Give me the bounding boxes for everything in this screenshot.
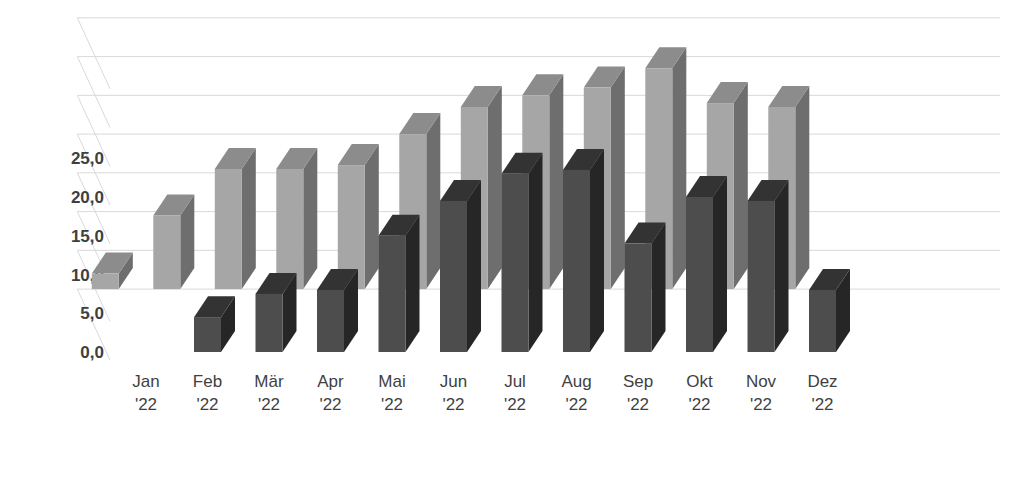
x-tick-label-month: Apr	[317, 372, 344, 391]
bar-side-face	[795, 86, 809, 289]
bar-front	[440, 180, 481, 352]
x-tick-label-month: Jun	[440, 372, 467, 391]
x-tick-label-month: Mär	[254, 372, 284, 391]
bar-front-face	[686, 197, 713, 352]
x-tick-label-year: '22	[258, 395, 280, 414]
x-tick-label-year: '22	[196, 395, 218, 414]
x-tick-label-year: '22	[442, 395, 464, 414]
bar-front-face	[440, 201, 467, 352]
bar-side-face	[365, 144, 379, 289]
bar-side-face	[672, 47, 686, 289]
bar-side-face	[590, 149, 604, 352]
bar-front-face	[215, 169, 242, 289]
x-axis-labels: Jan'22Feb'22Mär'22Apr'22Mai'22Jun'22Jul'…	[132, 372, 837, 414]
x-tick-label-month: Aug	[561, 372, 591, 391]
y-tick-label: 20,0	[71, 188, 104, 207]
bar-front-face	[153, 215, 180, 289]
y-tick-label: 5,0	[80, 304, 104, 323]
x-tick-label-year: '22	[565, 395, 587, 414]
bar-front-face	[502, 174, 529, 352]
bar-side-face	[406, 215, 420, 352]
x-tick-label-year: '22	[811, 395, 833, 414]
bar-front-face	[379, 236, 406, 352]
x-tick-label-month: Jan	[132, 372, 159, 391]
bar-side-face	[529, 153, 543, 352]
x-tick-label-month: Feb	[193, 372, 222, 391]
bar-side-face	[242, 148, 256, 289]
y-tick-label: 0,0	[80, 343, 104, 362]
bar-back	[92, 253, 133, 290]
bar-side-face	[652, 223, 666, 353]
bar-side-face	[467, 180, 481, 352]
x-tick-label-year: '22	[381, 395, 403, 414]
bar-front	[317, 269, 358, 352]
x-tick-label-year: '22	[750, 395, 772, 414]
bar-front-face	[92, 274, 119, 290]
bar-side-face	[549, 74, 563, 289]
bar-side-face	[713, 176, 727, 352]
bar-front	[686, 176, 727, 352]
bar-side-face	[775, 180, 789, 352]
x-tick-label-year: '22	[319, 395, 341, 414]
bar-front-face	[194, 317, 221, 352]
bar-front	[502, 153, 543, 352]
bar-side-face	[488, 86, 502, 289]
bar-front-face	[625, 244, 652, 353]
bar-front	[563, 149, 604, 352]
x-tick-label-month: Dez	[807, 372, 837, 391]
bar-side-face	[426, 113, 440, 289]
x-tick-label-year: '22	[135, 395, 157, 414]
chart-container: 0,05,010,015,020,025,0Jan'22Feb'22Mär'22…	[0, 0, 1030, 482]
bar-side-face	[734, 82, 748, 289]
y-tick-label: 25,0	[71, 149, 104, 168]
bar-front-face	[256, 294, 283, 352]
x-tick-label-month: Nov	[746, 372, 777, 391]
x-tick-label-month: Mai	[378, 372, 405, 391]
x-tick-label-year: '22	[504, 395, 526, 414]
bar-front-face	[276, 169, 303, 289]
bar-front	[379, 215, 420, 352]
x-tick-label-year: '22	[627, 395, 649, 414]
bar-front-face	[563, 170, 590, 352]
bar-front	[809, 269, 850, 352]
x-tick-label-month: Okt	[686, 372, 713, 391]
bar-front	[256, 273, 297, 352]
x-tick-label-month: Sep	[623, 372, 653, 391]
bar-side-face	[611, 67, 625, 290]
column-chart-3d: 0,05,010,015,020,025,0Jan'22Feb'22Mär'22…	[0, 0, 1030, 482]
bar-front	[625, 223, 666, 353]
y-tick-label: 15,0	[71, 227, 104, 246]
bar-back	[215, 148, 256, 289]
bar-front-face	[748, 201, 775, 352]
bar-front-face	[809, 290, 836, 352]
x-tick-label-month: Jul	[504, 372, 526, 391]
bar-front	[748, 180, 789, 352]
bar-back	[338, 144, 379, 289]
bar-front-face	[317, 290, 344, 352]
x-tick-label-year: '22	[688, 395, 710, 414]
bar-back	[153, 194, 194, 289]
bar-side-face	[303, 148, 317, 289]
bar-front	[194, 296, 235, 352]
bar-back	[276, 148, 317, 289]
